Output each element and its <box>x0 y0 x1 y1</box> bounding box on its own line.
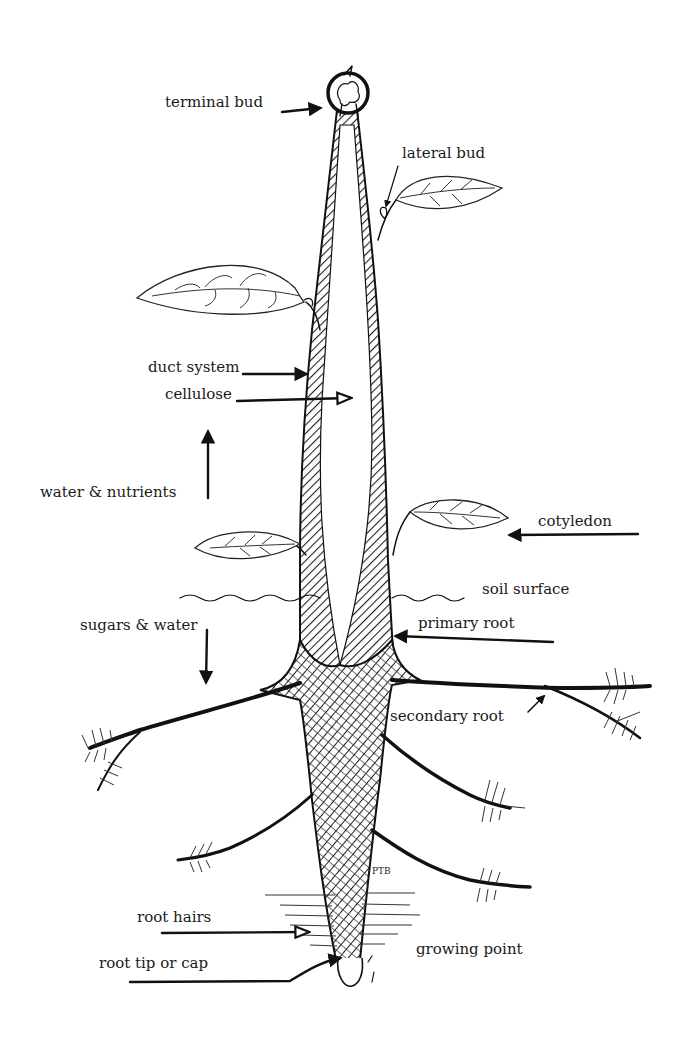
label-soil-surface: soil surface <box>482 580 570 598</box>
label-cotyledon: cotyledon <box>538 512 612 530</box>
soil-surface-line-right <box>392 595 464 601</box>
arrow-root-hairs <box>162 932 308 933</box>
label-terminal-bud: terminal bud <box>165 93 264 111</box>
arrow-cotyledon <box>510 534 638 535</box>
label-root-hairs: root hairs <box>137 908 211 926</box>
artist-signature: PTB <box>372 866 391 876</box>
label-sugars-water: sugars & water <box>80 616 198 634</box>
cotyledon-right <box>393 500 508 555</box>
large-left-leaf <box>137 265 320 330</box>
label-secondary-root: secondary root <box>390 707 504 725</box>
arrow-primary-root <box>396 636 553 642</box>
label-growing-point: growing point <box>416 940 523 958</box>
arrow-terminal-bud <box>282 108 320 112</box>
label-lateral-bud: lateral bud <box>402 144 486 162</box>
label-water-nutrients: water & nutrients <box>40 483 176 501</box>
label-duct-system: duct system <box>148 358 239 376</box>
label-primary-root: primary root <box>418 614 514 632</box>
plant-anatomy-diagram: PTB terminal bud lateral bud duct system… <box>0 0 688 1043</box>
label-root-tip-cap: root tip or cap <box>99 954 208 972</box>
arrow-down-sugars <box>206 630 207 682</box>
label-cellulose: cellulose <box>165 385 232 403</box>
lateral-bud-leaf <box>378 176 502 240</box>
terminal-bud <box>328 66 368 116</box>
cotyledon-left <box>195 532 306 559</box>
root-tip-cap <box>338 956 374 986</box>
arrow-secondary-root <box>528 696 544 712</box>
